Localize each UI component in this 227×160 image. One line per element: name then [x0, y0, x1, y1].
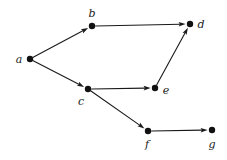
edge-e-d	[157, 33, 186, 85]
node-e[interactable]	[152, 85, 158, 91]
graph-canvas	[0, 0, 227, 160]
edge-a-c	[33, 61, 79, 85]
edge-b-d	[96, 24, 181, 26]
node-label-d: d	[197, 19, 204, 30]
node-c[interactable]	[85, 86, 91, 92]
node-layer	[27, 21, 215, 134]
arrowhead-e-d	[183, 28, 188, 35]
node-label-c: c	[78, 96, 84, 107]
edge-c-e	[92, 88, 146, 89]
node-d[interactable]	[187, 21, 193, 27]
node-label-f: f	[145, 139, 149, 150]
node-label-b: b	[88, 8, 95, 19]
node-a[interactable]	[27, 56, 33, 62]
node-label-e: e	[163, 85, 170, 96]
node-b[interactable]	[89, 23, 95, 29]
arrowhead-c-f	[137, 123, 144, 129]
node-label-g: g	[208, 139, 215, 150]
edge-f-g	[152, 130, 203, 131]
edge-c-f	[91, 91, 140, 125]
graph-diagram: abcdefg	[0, 0, 227, 160]
node-g[interactable]	[209, 127, 215, 133]
edge-a-b	[33, 31, 83, 58]
node-label-a: a	[16, 54, 23, 65]
edge-layer	[33, 22, 207, 133]
node-f[interactable]	[145, 128, 151, 134]
